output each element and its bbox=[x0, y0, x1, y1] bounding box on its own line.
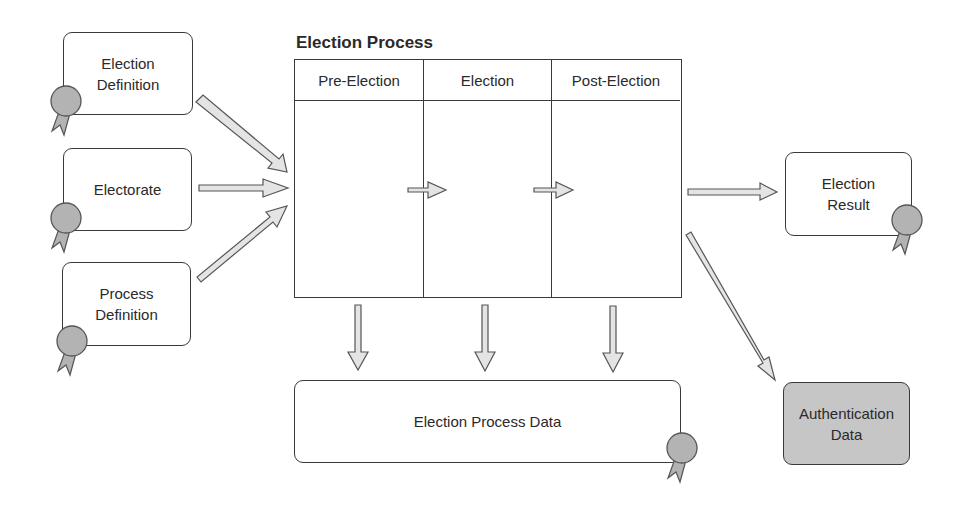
election-process-data-label: Election Process Data bbox=[414, 411, 562, 432]
election-process-data-box: Election Process Data bbox=[294, 380, 681, 463]
arrow-electorate-to-process bbox=[199, 179, 288, 197]
arrow-post-election-to-process-data bbox=[603, 306, 623, 372]
arrow-process-definition-to-process bbox=[197, 206, 287, 282]
arrow-process-to-election-result bbox=[688, 183, 777, 200]
electorate-box: Electorate bbox=[63, 148, 192, 231]
election-result-label: Election Result bbox=[822, 173, 875, 215]
phase-pre-election-label: Pre-Election bbox=[295, 60, 423, 101]
arrow-election-definition-to-process bbox=[196, 95, 287, 172]
electorate-label: Electorate bbox=[94, 179, 162, 200]
phase-post-election-label: Post-Election bbox=[552, 60, 680, 101]
process-definition-label: Process Definition bbox=[95, 283, 158, 325]
election-result-box: Election Result bbox=[785, 152, 912, 236]
phase-pre-election: Pre-Election bbox=[295, 60, 424, 297]
election-process-title: Election Process bbox=[296, 33, 433, 53]
arrow-pre-election-to-process-data bbox=[348, 305, 368, 370]
election-definition-label: Election Definition bbox=[97, 53, 160, 95]
election-process-table: Pre-Election Election Post-Election bbox=[294, 59, 682, 298]
authentication-data-label: Authentication Data bbox=[799, 403, 894, 445]
process-definition-box: Process Definition bbox=[62, 262, 191, 346]
authentication-data-box: Authentication Data bbox=[783, 382, 910, 465]
phase-election: Election bbox=[424, 60, 552, 297]
arrow-election-to-process-data bbox=[475, 305, 495, 371]
election-definition-box: Election Definition bbox=[63, 32, 193, 115]
phase-post-election: Post-Election bbox=[552, 60, 680, 297]
arrow-process-to-authentication-data bbox=[686, 232, 775, 380]
phase-election-label: Election bbox=[424, 60, 551, 101]
